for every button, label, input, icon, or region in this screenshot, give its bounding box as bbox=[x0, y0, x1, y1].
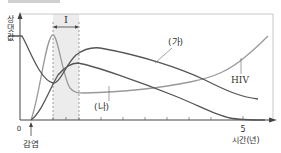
hiv-immune-response-chart: I (가) (나) HIV 상 댓 값 0 5 시간(년) 감염 bbox=[0, 0, 281, 153]
x-axis-label: 시간(년) bbox=[232, 135, 259, 145]
leader-ga bbox=[155, 48, 172, 63]
tick-label-5: 5 bbox=[240, 125, 245, 134]
infection-arrow-head-icon bbox=[29, 122, 33, 127]
y-axis-label-1: 상 bbox=[7, 14, 15, 24]
interval-label: I bbox=[64, 14, 68, 25]
series-label-ga: (가) bbox=[168, 37, 183, 47]
y-axis-label-3: 값 bbox=[7, 32, 15, 42]
x-ticks bbox=[53, 116, 243, 120]
origin-label: 0 bbox=[17, 125, 21, 133]
cropped-header bbox=[8, 0, 60, 3]
infection-label: 감염 bbox=[23, 139, 39, 149]
series-label-na: (나) bbox=[94, 102, 109, 112]
y-axis-label-2: 댓 bbox=[7, 23, 14, 33]
y-axis-arrow-icon bbox=[18, 12, 23, 19]
series-label-hiv: HIV bbox=[231, 75, 249, 85]
x-axis-arrow-icon bbox=[269, 118, 277, 123]
